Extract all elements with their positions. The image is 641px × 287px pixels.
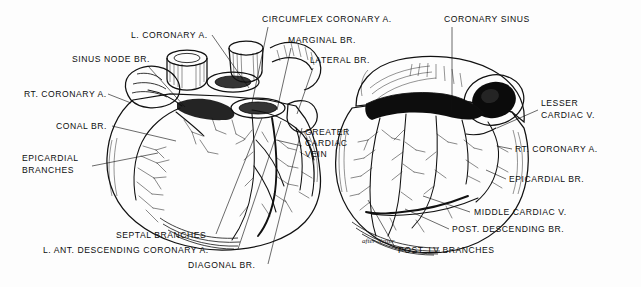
label-epicardial-branches-line1: EPICARDIAL (22, 153, 79, 163)
label-lateral-br: LATERAL BR. (310, 55, 370, 65)
label-middle-cardiac-v: MIDDLE CARDIAC V. (474, 207, 567, 217)
label-post-descending-br: POST. DESCENDING BR. (452, 224, 564, 234)
label-rt-coronary-a-left: RT. CORONARY A. (24, 89, 107, 99)
label-greater-cardiac-vein-line2: CARDIAC (305, 138, 348, 148)
label-coronary-sinus: CORONARY SINUS (444, 14, 530, 24)
label-lesser-cardiac-v-line2: CARDIAC V. (541, 110, 595, 120)
label-circumflex-coronary-a: CIRCUMFLEX CORONARY A. (262, 14, 392, 24)
label-septal-branches: SEPTAL BRANCHES (116, 230, 206, 240)
label-conal-br: CONAL BR. (56, 121, 107, 131)
artist-signature: after Netter (362, 237, 395, 245)
label-epicardial-branches-line2: BRANCHES (22, 165, 74, 175)
label-l-coronary-a: L. CORONARY A. (131, 30, 208, 40)
label-rt-coronary-a-right: RT. CORONARY A. (515, 144, 598, 154)
label-sinus-node-br: SINUS NODE BR. (72, 54, 150, 64)
label-lesser-cardiac-v-line1: LESSER (541, 98, 578, 108)
label-diagonal-br: DIAGONAL BR. (188, 260, 255, 270)
label-greater-cardiac-vein-line3: VEIN (305, 149, 327, 159)
label-epicardial-br: EPICARDIAL BR. (509, 174, 584, 184)
label-marginal-br: MARGINAL BR. (288, 35, 356, 45)
label-l-ant-descending: L. ANT. DESCENDING CORONARY A. (43, 245, 209, 255)
label-post-lv-branches: POST. LV BRANCHES (398, 245, 495, 255)
anatomical-figure: L. CORONARY A. SINUS NODE BR. RT. CORONA… (0, 0, 641, 287)
label-greater-cardiac-vein-line1: GREATER (305, 127, 350, 137)
